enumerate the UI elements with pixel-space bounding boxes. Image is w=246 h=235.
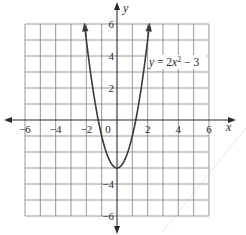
x-axis-label: x (225, 120, 232, 134)
x-tick-label: 2 (145, 123, 151, 135)
axes (4, 2, 236, 234)
equation-label: y = 2x2 − 3 (148, 55, 207, 69)
y-tick-label: 2 (109, 82, 115, 94)
x-tick-label: −4 (50, 123, 62, 135)
y-tick-label: 4 (109, 50, 115, 62)
x-tick-label: 4 (176, 123, 182, 135)
y-tick-label: −6 (102, 210, 114, 222)
parabola-graph: −6−4−20246642−4−6 x y y = 2x2 − 3 (0, 0, 246, 235)
x-tick-label: 0 (105, 123, 111, 135)
eq-suffix: − 3 (181, 56, 199, 68)
y-tick-label: 6 (109, 18, 115, 30)
y-tick-label: −4 (102, 178, 114, 190)
x-tick-label: −6 (19, 123, 31, 135)
eq-eq: = 2 (154, 56, 172, 68)
y-axis-down-arrow-icon (114, 226, 120, 234)
x-tick-label: −2 (80, 123, 92, 135)
y-axis-up-arrow-icon (114, 2, 120, 10)
equation-text: y = 2x2 − 3 (148, 55, 199, 69)
y-axis-label: y (122, 1, 129, 15)
x-axis-left-arrow-icon (4, 117, 12, 123)
x-tick-label: 6 (206, 123, 212, 135)
